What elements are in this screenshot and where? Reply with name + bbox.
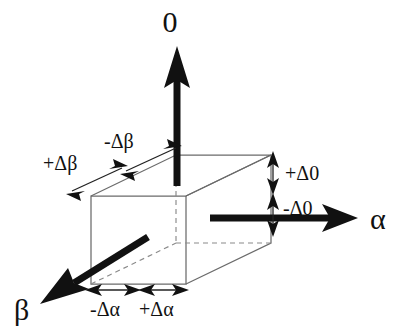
axis-beta-group: β [14,237,148,326]
increment-zero-positive-label: +Δ0 [285,162,319,184]
increment-beta-group: +Δβ -Δβ [43,130,182,201]
box-top-face [91,155,271,196]
increment-beta-positive-label: +Δβ [43,152,77,175]
increment-beta-positive-head-left [66,191,85,201]
axis-beta-label: β [14,293,29,326]
increment-zero-group: +Δ0 -Δ0 [267,151,319,237]
increment-beta-positive-shaft [72,168,122,191]
increment-alpha-positive-label: +Δα [139,298,174,320]
diagram-canvas: 0 α β +Δ0 -Δ0 [0,0,409,336]
axis-beta-shaft [74,237,148,283]
increment-beta-positive-head-right [109,159,128,169]
axis-zero-label: 0 [163,5,178,38]
increment-zero-negative-label: -Δ0 [283,197,313,219]
axis-alpha-label: α [370,202,386,235]
increment-box-figure: 0 α β +Δ0 -Δ0 [0,0,409,336]
increment-beta-negative-label: -Δβ [104,130,134,153]
increment-alpha-negative-label: -Δα [90,298,121,320]
increment-beta-negative-head-left [120,171,139,181]
axis-beta-arrowhead [40,268,89,304]
increment-alpha-group: -Δα +Δα [85,284,189,320]
